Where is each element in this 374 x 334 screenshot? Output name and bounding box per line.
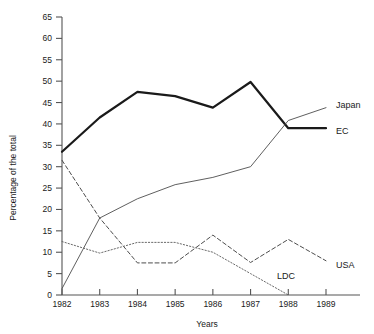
series-line-japan [62,108,326,289]
y-tick-label: 25 [43,183,53,193]
x-tick-label: 1986 [203,299,222,309]
y-tick-marks [56,17,62,295]
x-tick-label: 1983 [90,299,109,309]
y-tick-labels: 05101520253035404550556065 [43,12,53,300]
x-tick-label: 1988 [279,299,298,309]
y-tick-label: 50 [43,76,53,86]
series-label-ec: EC [336,126,349,136]
x-tick-label: 1984 [128,299,147,309]
x-tick-label: 1989 [317,299,336,309]
x-axis-title: Years [196,319,217,329]
y-tick-label: 60 [43,33,53,43]
y-tick-label: 10 [43,247,53,257]
series-line-ldc [62,242,288,295]
y-tick-label: 65 [43,12,53,22]
y-tick-label: 35 [43,140,53,150]
y-tick-label: 45 [43,98,53,108]
chart-canvas: 05101520253035404550556065 Percentage of… [0,0,374,334]
series-lines [62,82,326,295]
y-tick-label: 15 [43,226,53,236]
y-axis-group: 05101520253035404550556065 Percentage of… [8,12,62,300]
series-line-ec [62,82,326,152]
line-chart: 05101520253035404550556065 Percentage of… [0,0,374,334]
y-tick-label: 0 [47,290,52,300]
y-axis-title: Percentage of the total [8,135,18,221]
x-tick-labels: 19821983198419851986198719881989 [53,299,336,309]
x-axis-group: 19821983198419851986198719881989 Years [53,289,360,329]
y-tick-label: 5 [47,269,52,279]
series-label-usa: USA [336,260,355,270]
series-label-japan: Japan [336,100,361,110]
y-tick-label: 55 [43,55,53,65]
y-tick-label: 30 [43,162,53,172]
y-tick-label: 20 [43,204,53,214]
y-tick-label: 40 [43,119,53,129]
x-tick-label: 1987 [241,299,260,309]
series-label-ldc: LDC [277,271,296,281]
x-tick-label: 1982 [53,299,72,309]
x-tick-label: 1985 [166,299,185,309]
